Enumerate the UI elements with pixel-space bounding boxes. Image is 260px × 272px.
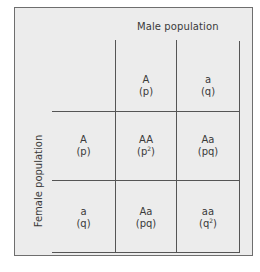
column-header-a: a (q) <box>177 68 239 104</box>
male-population-label: Male population <box>137 21 219 32</box>
grid-line-vertical-3 <box>239 41 240 252</box>
genotype-label: Aa <box>202 134 215 146</box>
allele-label: a <box>80 206 86 218</box>
genotype-cell-Aa-bottom: Aa (pq) <box>116 200 176 236</box>
genotype-frequency: (pq) <box>198 146 219 158</box>
row-header-a: a (q) <box>52 200 115 236</box>
genotype-label: Aa <box>140 206 153 218</box>
frequency-label: (q) <box>76 218 90 230</box>
genotype-cell-AA: AA (p2) <box>116 128 176 164</box>
female-population-label: Female population <box>33 135 44 228</box>
row-header-A: A (p) <box>52 128 115 164</box>
frequency-label: (q) <box>201 86 215 98</box>
genotype-frequency: (q2) <box>199 218 217 230</box>
frequency-label: (p) <box>76 146 90 158</box>
genotype-cell-Aa-top: Aa (pq) <box>177 128 239 164</box>
grid-line-horizontal-2 <box>52 180 240 181</box>
grid-line-horizontal-1 <box>52 111 240 112</box>
genotype-frequency: (p2) <box>137 146 155 158</box>
grid-line-horizontal-3 <box>52 252 240 253</box>
allele-label: A <box>143 74 150 86</box>
allele-label: A <box>80 134 87 146</box>
genotype-frequency: (pq) <box>136 218 157 230</box>
column-header-A: A (p) <box>116 68 176 104</box>
frequency-label: (p) <box>139 86 153 98</box>
allele-label: a <box>205 74 211 86</box>
genotype-cell-aa: aa (q2) <box>177 200 239 236</box>
